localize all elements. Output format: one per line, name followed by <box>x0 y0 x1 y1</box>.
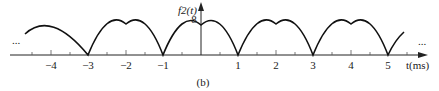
tick-label: −2 <box>120 59 132 71</box>
rectified-wave-chart: −4 −3 −2 −1 1 2 3 4 5 f2(t) 8 t(ms) ... … <box>0 0 439 91</box>
tick-label: 2 <box>273 59 279 71</box>
tick-label: 4 <box>348 59 354 71</box>
x-axis-arrow-icon <box>418 52 428 58</box>
tick-label: 1 <box>235 59 241 71</box>
x-axis-label: t(ms) <box>406 59 430 72</box>
ellipsis-left: ... <box>12 34 21 46</box>
tick-label: 3 <box>310 59 316 71</box>
ellipsis-right: ... <box>418 35 427 47</box>
y-peak-label: 8 <box>191 13 197 25</box>
tick-label: −4 <box>45 59 57 71</box>
y-axis-arrow-icon <box>198 2 204 11</box>
tick-label: −3 <box>82 59 94 71</box>
panel-label: (b) <box>197 76 210 89</box>
tick-label: 5 <box>385 59 391 71</box>
tick-label: −1 <box>157 59 169 71</box>
waveform-curve <box>25 20 404 55</box>
